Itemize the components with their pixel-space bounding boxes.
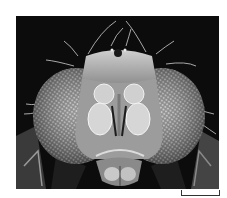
scale-bar-line: [181, 195, 220, 196]
ocelli: [114, 49, 122, 57]
scale-bar: [181, 191, 220, 197]
sem-image-panel: [16, 16, 219, 189]
fly-head-micrograph: [16, 16, 219, 189]
scale-bar-tick-right: [219, 190, 220, 196]
proboscis: [96, 158, 142, 187]
